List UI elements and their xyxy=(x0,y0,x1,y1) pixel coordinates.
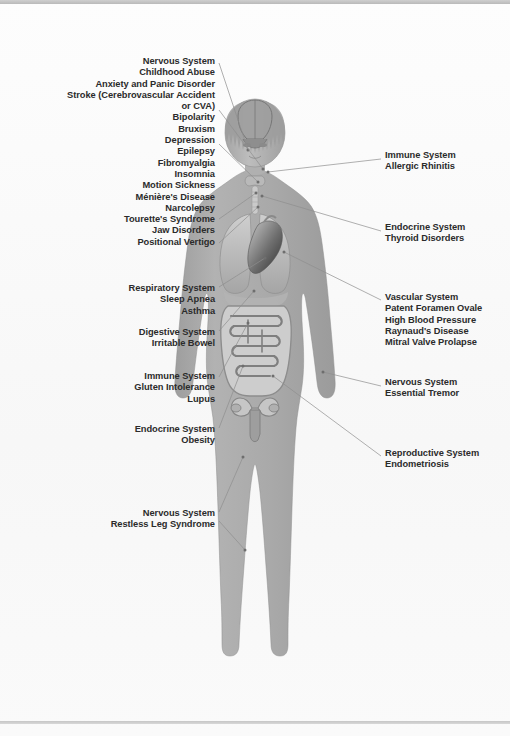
leader-vascular-endpoint-dot xyxy=(283,251,286,254)
leader-nervous-head-3-endpoint-dot xyxy=(257,181,260,184)
label-nervous-system-legs: Nervous System Restless Leg Syndrome xyxy=(8,508,215,531)
right-eye xyxy=(259,143,267,147)
label-digestive-system: Digestive System Irritable Bowel xyxy=(8,327,215,350)
label-immune-system-rhinitis: Immune System Allergic Rhinitis xyxy=(385,150,507,173)
leader-respiratory-endpoint-dot xyxy=(264,257,267,260)
label-nervous-system-tremor: Nervous System Essential Tremor xyxy=(385,377,507,400)
leader-nervous-tremor-endpoint-dot xyxy=(322,371,325,374)
leader-nervous-legs-1-endpoint-dot xyxy=(242,456,245,459)
label-immune-system-gut: Immune System Gluten Intolerance Lupus xyxy=(8,371,215,405)
left-ovary xyxy=(231,404,241,412)
small-intestine xyxy=(230,316,282,376)
leader-nervous-head-4-endpoint-dot xyxy=(255,192,258,195)
label-nervous-system-head: Nervous System Childhood Abuse Anxiety a… xyxy=(8,56,215,248)
leader-digestive-endpoint-dot xyxy=(253,290,256,293)
leader-immune-rhinitis-endpoint-dot xyxy=(267,171,270,174)
label-respiratory-system: Respiratory System Sleep Apnea Asthma xyxy=(8,283,215,317)
leader-endocrine-thyroid-endpoint-dot xyxy=(261,195,264,198)
leader-nervous-legs-2-endpoint-dot xyxy=(244,549,247,552)
thyroid-gland xyxy=(245,176,265,186)
leader-endocrine-obesity-endpoint-dot xyxy=(242,365,245,368)
leader-reproductive-endpoint-dot xyxy=(272,375,275,378)
label-endocrine-system-obesity: Endocrine System Obesity xyxy=(8,424,215,447)
uterus-body xyxy=(250,410,260,442)
label-reproductive-system: Reproductive System Endometriosis xyxy=(385,448,507,471)
leader-nervous-head-2-endpoint-dot xyxy=(262,168,265,171)
label-endocrine-system-thyroid: Endocrine System Thyroid Disorders xyxy=(385,222,507,245)
label-vascular-system: Vascular System Patent Foramen Ovale Hig… xyxy=(385,292,507,348)
leader-nervous-head-5-endpoint-dot xyxy=(257,206,260,209)
leader-immune-gut-endpoint-dot xyxy=(247,322,250,325)
bottom-rule-bar xyxy=(0,721,510,724)
right-ovary xyxy=(269,404,279,412)
diagram-page: Nervous System Childhood Abuse Anxiety a… xyxy=(0,0,510,736)
leader-immune-rhinitis xyxy=(268,159,381,172)
